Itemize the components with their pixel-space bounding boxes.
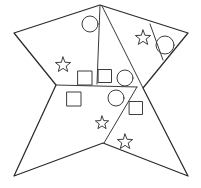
figure-root <box>0 0 201 188</box>
figure-canvas <box>0 0 201 188</box>
concave-star-polygon-outline <box>14 5 188 176</box>
